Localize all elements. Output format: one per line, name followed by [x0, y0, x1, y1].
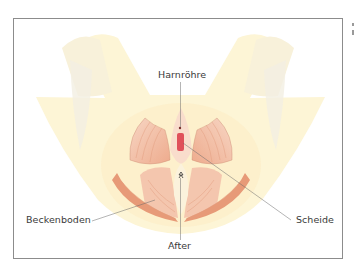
label-beckenboden: Beckenboden	[26, 215, 91, 225]
label-scheide: Scheide	[296, 215, 334, 225]
label-after: After	[168, 241, 191, 251]
pelvic-floor-illustration	[0, 0, 355, 275]
vaginal-opening	[177, 133, 184, 151]
urethra-opening	[179, 127, 181, 129]
label-harnroehre: Harnröhre	[158, 70, 206, 80]
